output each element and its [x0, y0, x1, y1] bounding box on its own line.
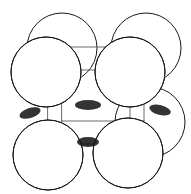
- unit-cell-figure: [0, 0, 191, 194]
- contact-center-top: [75, 100, 101, 110]
- unit-cell-drawing: [0, 0, 191, 194]
